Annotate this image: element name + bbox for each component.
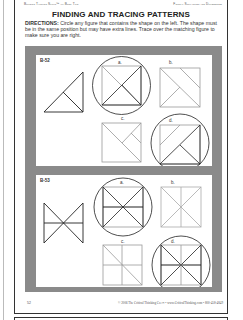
option-d: d. xyxy=(152,236,210,287)
page-title: FINDING AND TRACING PATTERNS xyxy=(14,10,228,19)
option-b: b. xyxy=(160,60,200,107)
option-a: a. xyxy=(94,178,152,236)
problem-b53: B-53 a. b. c xyxy=(36,175,212,287)
problem-b53-figures: a. b. c. d. xyxy=(36,175,212,287)
svg-text:d.: d. xyxy=(169,118,173,123)
page-border xyxy=(227,0,228,314)
option-c: c. xyxy=(103,239,142,285)
problem-b52-figures: a. b. c. d. xyxy=(36,55,212,166)
svg-text:d.: d. xyxy=(171,239,175,244)
page-number: 52 xyxy=(27,301,31,305)
svg-text:b.: b. xyxy=(169,60,173,65)
option-d: d. xyxy=(151,114,209,166)
svg-text:a.: a. xyxy=(118,60,122,65)
problem-b52: B-52 a. b. c. xyxy=(36,55,212,166)
option-b: b. xyxy=(161,180,201,227)
copyright-footer: © 2006 The Critical Thinking Co.™ • www.… xyxy=(95,301,223,305)
svg-text:c.: c. xyxy=(121,116,125,121)
page-border xyxy=(14,0,15,314)
next-page-edge xyxy=(14,317,228,318)
svg-text:c.: c. xyxy=(121,239,125,244)
svg-text:b.: b. xyxy=(171,180,175,185)
page-border xyxy=(14,313,228,314)
target-shape xyxy=(44,72,83,112)
option-c: c. xyxy=(102,116,141,162)
svg-text:a.: a. xyxy=(120,180,124,185)
option-a: a. xyxy=(93,57,151,115)
header-book-title: Building Thinking Skills™ — Book Two xyxy=(24,2,78,6)
scan-edge xyxy=(3,0,4,320)
directions: DIRECTIONS: Circle any figure that conta… xyxy=(25,20,223,38)
running-header: Building Thinking Skills™ — Book Two Fig… xyxy=(24,2,222,6)
target-shape xyxy=(44,203,83,243)
header-section: Figural Similarities and Differences xyxy=(173,2,222,6)
